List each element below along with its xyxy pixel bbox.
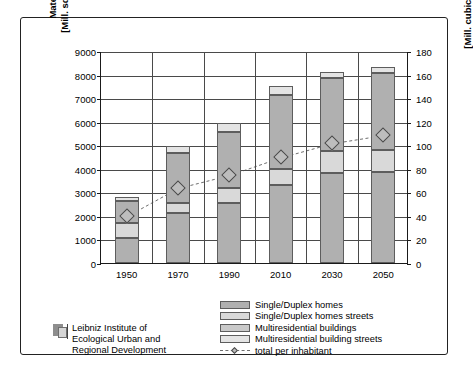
attribution-line-3: Regional Development	[72, 345, 166, 356]
category-separator	[306, 52, 307, 263]
gridline	[101, 193, 407, 194]
legend-item[interactable]: total per inhabitant	[220, 345, 382, 357]
x-axis-tick-label: 1970	[167, 269, 188, 280]
y-axis-tick	[97, 240, 101, 241]
y-axis-tick	[97, 146, 101, 147]
y-axis-tick-label: 9000	[56, 47, 96, 58]
y-axis-title-left-line1: Materials	[47, 0, 58, 19]
bar-segment	[269, 86, 293, 95]
y-axis-tick-label: 5000	[56, 141, 96, 152]
trend-line	[101, 52, 407, 263]
y-axis-tick-label: 8000	[56, 70, 96, 81]
y-axis-tick	[97, 170, 101, 171]
y-axis-tick	[97, 217, 101, 218]
y-axis-tick	[97, 193, 101, 194]
y2-axis-tick	[407, 170, 411, 171]
bar-segment	[371, 150, 395, 172]
gridline	[101, 99, 407, 100]
legend-label: total per inhabitant	[255, 346, 332, 356]
bar-segment	[217, 123, 241, 132]
legend-item[interactable]: Multiresidential building streets	[220, 334, 382, 346]
chart-legend: Single/Duplex homesSingle/Duplex homes s…	[220, 299, 382, 357]
gridline	[101, 146, 407, 147]
y2-axis-tick-label: 120	[416, 117, 446, 128]
bar-segment	[217, 203, 241, 263]
legend-swatch	[220, 301, 250, 309]
y-axis-tick	[97, 99, 101, 100]
bar-segment	[166, 203, 190, 213]
y2-axis-tick	[407, 52, 411, 53]
bar-1950[interactable]	[115, 51, 139, 263]
bar-segment	[371, 172, 395, 263]
category-separator	[152, 52, 153, 263]
bar-2030[interactable]	[320, 51, 344, 263]
y-axis-tick	[97, 264, 101, 265]
y2-axis-tick	[407, 146, 411, 147]
y2-axis-tick-label: 100	[416, 141, 446, 152]
y-axis-title-left-line2: [Mill. square m]	[59, 0, 70, 33]
attribution-block: Leibniz Institute of Ecological Urban an…	[53, 323, 166, 356]
y-axis-tick	[97, 76, 101, 77]
legend-swatch	[220, 324, 250, 332]
gridline	[101, 217, 407, 218]
legend-item[interactable]: Multiresidential buildings	[220, 322, 382, 334]
plot-area: 0100020003000400050006000700080009000020…	[100, 52, 408, 264]
legend-swatch	[220, 312, 250, 320]
legend-line-swatch	[220, 347, 250, 355]
y-axis-tick-label: 7000	[56, 94, 96, 105]
y2-axis-tick-label: 140	[416, 94, 446, 105]
y2-axis-tick	[407, 193, 411, 194]
bar-segment	[115, 238, 139, 263]
y-axis-tick-label: 3000	[56, 188, 96, 199]
attribution-line-2: Ecological Urban and	[72, 334, 166, 345]
legend-label: Single/Duplex homes	[255, 300, 343, 310]
y2-axis-tick-label: 40	[416, 211, 446, 222]
legend-item[interactable]: Single/Duplex homes streets	[220, 311, 382, 323]
bar-segment	[320, 151, 344, 173]
legend-swatch	[220, 335, 250, 343]
y-axis-tick-label: 6000	[56, 117, 96, 128]
y2-axis-tick-label: 20	[416, 235, 446, 246]
y2-axis-tick-label: 160	[416, 70, 446, 81]
legend-diamond-icon	[231, 347, 238, 354]
y-axis-title-left: Materials [Mill. square m]	[47, 0, 71, 68]
y2-axis-tick-label: 0	[416, 259, 446, 270]
bar-1990[interactable]	[217, 51, 241, 263]
y2-axis-tick-label: 180	[416, 47, 446, 58]
bar-1970[interactable]	[166, 51, 190, 263]
bar-segment	[320, 72, 344, 79]
y2-axis-tick-label: 80	[416, 164, 446, 175]
bar-segment	[166, 213, 190, 263]
legend-label: Multiresidential buildings	[255, 323, 356, 333]
bar-segment	[166, 146, 190, 153]
bar-segment	[115, 223, 139, 237]
category-separator	[204, 52, 205, 263]
gridline	[101, 52, 407, 53]
y-axis-title-right: [Mill. cubic m/inhabitant]	[462, 0, 473, 78]
y2-axis-tick	[407, 76, 411, 77]
category-separator	[358, 52, 359, 263]
y2-axis-tick	[407, 123, 411, 124]
bar-segment	[269, 169, 293, 185]
category-separator	[255, 52, 256, 263]
legend-label: Single/Duplex homes streets	[255, 311, 373, 321]
x-axis-tick-label: 2030	[321, 269, 342, 280]
y-axis-tick	[97, 52, 101, 53]
bar-segment	[115, 197, 139, 201]
legend-label: Multiresidential building streets	[255, 334, 382, 344]
bar-2050[interactable]	[371, 51, 395, 263]
y2-axis-tick	[407, 99, 411, 100]
x-axis-tick-label: 2010	[270, 269, 291, 280]
y2-axis-tick-label: 60	[416, 188, 446, 199]
y-axis-tick	[97, 123, 101, 124]
y2-axis-tick	[407, 264, 411, 265]
x-axis-tick-label: 1950	[116, 269, 137, 280]
y-axis-tick-label: 2000	[56, 211, 96, 222]
bar-segment	[371, 67, 395, 73]
x-axis-tick-label: 1990	[219, 269, 240, 280]
gridline	[101, 76, 407, 77]
gridline	[101, 240, 407, 241]
legend-item[interactable]: Single/Duplex homes	[220, 299, 382, 311]
gridline	[101, 170, 407, 171]
